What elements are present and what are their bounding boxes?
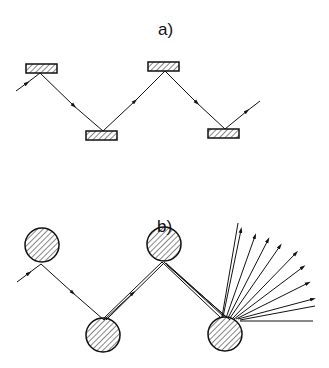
ray-path-b: [17, 262, 230, 320]
panel-a: a): [16, 20, 260, 140]
flat-reflectors: [26, 62, 239, 140]
reflector-1: [26, 64, 57, 73]
panel-b: b): [17, 217, 315, 352]
reflector-3: [148, 62, 179, 71]
diverging-fan: [222, 223, 315, 321]
cylinder-4: [208, 317, 242, 351]
reflector-2: [86, 131, 117, 140]
cylinder-3: [147, 227, 181, 261]
reflector-4: [208, 129, 239, 138]
cylinder-2: [86, 318, 120, 352]
panel-a-label: a): [158, 20, 173, 39]
cylinder-1: [25, 228, 59, 262]
diagram: a) b): [0, 0, 329, 368]
ray-path-a: [16, 71, 260, 131]
